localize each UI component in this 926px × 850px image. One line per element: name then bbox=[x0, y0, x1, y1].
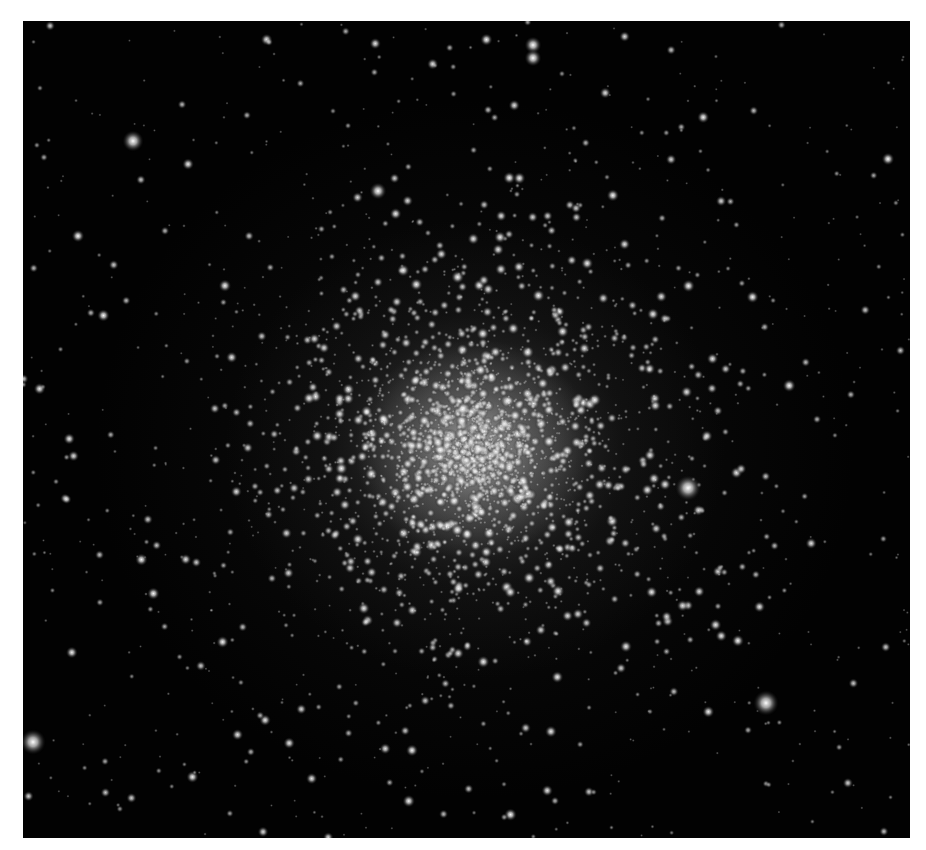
star-field bbox=[23, 21, 910, 838]
star-cluster-photo bbox=[23, 21, 910, 838]
